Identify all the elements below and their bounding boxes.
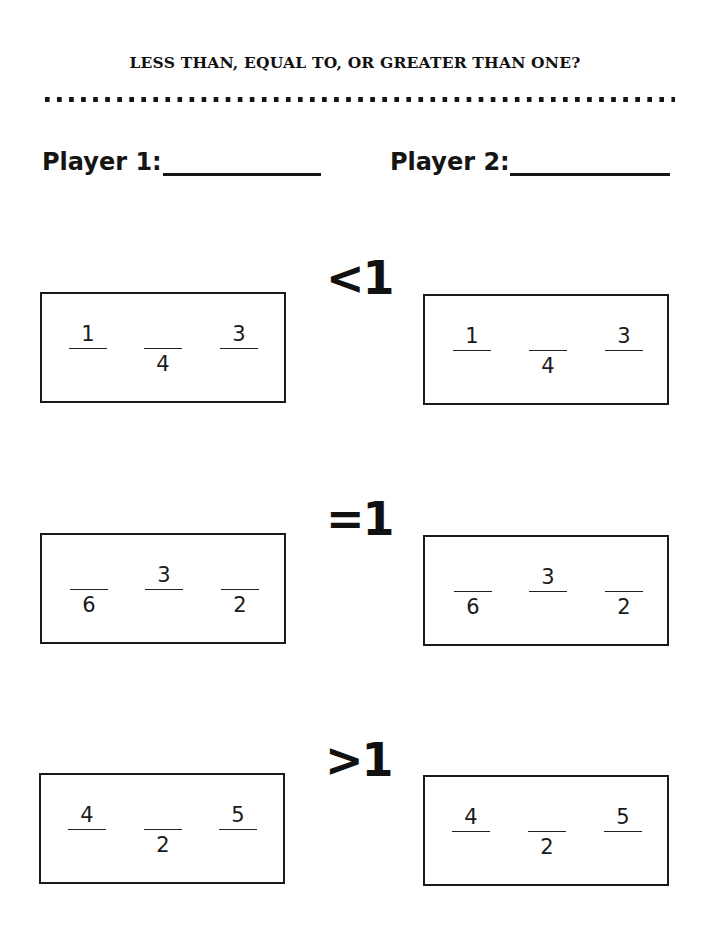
fraction-bar: [145, 589, 183, 590]
equal-to-one-symbol: =1: [326, 496, 393, 542]
fraction-bar: [605, 591, 643, 592]
player-2-name-blank[interactable]: [510, 173, 670, 176]
numerator: 3: [220, 323, 258, 345]
player-2-greater-than-one-box: 4 2 5: [423, 775, 669, 886]
fraction-slot[interactable]: 2: [221, 559, 259, 619]
numerator: 4: [68, 804, 106, 826]
worksheet-title: LESS THAN, EQUAL TO, OR GREATER THAN ONE…: [0, 53, 710, 72]
numerator: 1: [69, 323, 107, 345]
fraction-slot[interactable]: 2: [605, 561, 643, 621]
fraction-slot[interactable]: 6: [70, 559, 108, 619]
player-1-less-than-one-box: 1 4 3: [40, 292, 286, 403]
player-1-greater-than-one-box: 4 2 5: [39, 773, 285, 884]
numerator: 5: [219, 804, 257, 826]
fraction-slot[interactable]: 2: [144, 799, 182, 859]
fraction-slot[interactable]: 4: [144, 318, 182, 378]
greater-than-one-symbol: >1: [325, 737, 392, 783]
fraction-bar: [529, 350, 567, 351]
fraction-slot[interactable]: 4: [68, 799, 106, 859]
fraction-bar: [68, 829, 106, 830]
denominator: 2: [221, 594, 259, 616]
fraction-bar: [144, 348, 182, 349]
denominator: 6: [454, 596, 492, 618]
fraction-slot[interactable]: 1: [69, 318, 107, 378]
denominator: 2: [605, 596, 643, 618]
player-2-label: Player 2:: [390, 148, 510, 176]
fraction-slot[interactable]: 2: [528, 801, 566, 861]
fraction-bar: [220, 348, 258, 349]
numerator: 3: [529, 566, 567, 588]
player-1-name-blank[interactable]: [163, 173, 321, 176]
numerator: 5: [604, 806, 642, 828]
numerator: 3: [145, 564, 183, 586]
fraction-bar: [529, 591, 567, 592]
fraction-bar: [452, 831, 490, 832]
numerator: 3: [605, 325, 643, 347]
fraction-bar: [69, 348, 107, 349]
fraction-bar: [605, 350, 643, 351]
fraction-bar: [454, 591, 492, 592]
fraction-bar: [219, 829, 257, 830]
player-2-equal-to-one-box: 6 3 2: [423, 535, 669, 646]
denominator: 2: [144, 834, 182, 856]
fraction-slot[interactable]: 4: [529, 320, 567, 380]
fraction-slot[interactable]: 3: [605, 320, 643, 380]
fraction-slot[interactable]: 6: [454, 561, 492, 621]
fraction-slot[interactable]: 4: [452, 801, 490, 861]
fraction-bar: [604, 831, 642, 832]
fraction-bar: [528, 831, 566, 832]
denominator: 4: [144, 353, 182, 375]
dotted-divider: [45, 97, 675, 102]
player-1-equal-to-one-box: 6 3 2: [40, 533, 286, 644]
fraction-slot[interactable]: 1: [453, 320, 491, 380]
fraction-bar: [144, 829, 182, 830]
less-than-one-symbol: <1: [326, 255, 393, 301]
numerator: 4: [452, 806, 490, 828]
fraction-bar: [70, 589, 108, 590]
fraction-slot[interactable]: 5: [604, 801, 642, 861]
fraction-slot[interactable]: 5: [219, 799, 257, 859]
denominator: 6: [70, 594, 108, 616]
denominator: 2: [528, 836, 566, 858]
player-1-label: Player 1:: [42, 148, 162, 176]
fraction-slot[interactable]: 3: [145, 559, 183, 619]
numerator: 1: [453, 325, 491, 347]
fraction-bar: [453, 350, 491, 351]
denominator: 4: [529, 355, 567, 377]
player-2-less-than-one-box: 1 4 3: [423, 294, 669, 405]
fraction-slot[interactable]: 3: [529, 561, 567, 621]
fraction-bar: [221, 589, 259, 590]
fraction-slot[interactable]: 3: [220, 318, 258, 378]
